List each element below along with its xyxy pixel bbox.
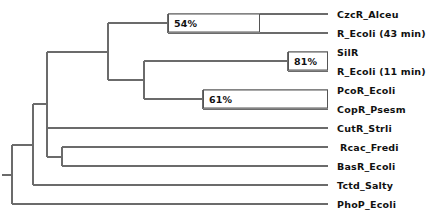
leaf-label-tctd-salty: Tctd_Salty (337, 180, 393, 191)
leaf-label-czcr-alceu: CzcR_Alceu (337, 9, 399, 20)
leaf-label-pcor-ecoli: PcoR_Ecoli (337, 85, 395, 96)
leaf-label-copr-psesm: CopR_Psesm (337, 104, 406, 115)
support-value-54: 54% (168, 14, 260, 33)
leaf-label-rcac-fredi: Rcac_Fredi (340, 142, 399, 153)
leaf-label-silr: SilR (337, 47, 358, 58)
phylogenetic-tree-figure: CzcR_Alceu R_Ecoli (43 min) SilR R_Ecoli… (0, 0, 448, 218)
support-value-81: 81% (288, 52, 328, 71)
leaf-label-r-ecoli-43: R_Ecoli (43 min) (337, 28, 426, 39)
leaf-label-phop-ecoli: PhoP_Ecoli (337, 199, 396, 210)
leaf-label-cutr-strli: CutR_Strli (337, 123, 392, 134)
support-value-61: 61% (203, 90, 328, 109)
leaf-label-basr-ecoli: BasR_Ecoli (337, 161, 396, 172)
leaf-label-r-ecoli-11: R_Ecoli (11 min) (337, 66, 426, 77)
